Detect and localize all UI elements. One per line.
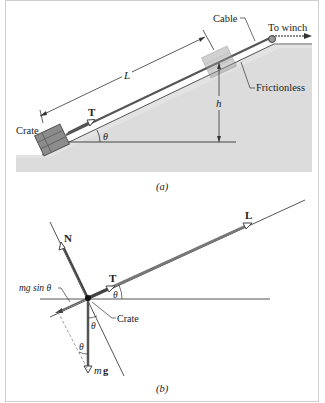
normal-vector [63, 246, 88, 298]
cable-leader [240, 18, 255, 41]
mg-sin-component [60, 298, 88, 311]
height-label: h [216, 97, 222, 109]
crate-label-b: Crate [117, 313, 139, 324]
cable-label: Cable [213, 13, 238, 24]
caption-a: (a) [156, 181, 169, 193]
panel-a: T L h θ Crate Cable To winch Frictionles… [16, 13, 312, 193]
crate-label: Crate [16, 125, 39, 136]
tension-label-b: T [109, 272, 117, 284]
figure: T L h θ Crate Cable To winch Frictionles… [0, 0, 325, 403]
crate-node [85, 295, 91, 301]
weight-label-g: g [103, 365, 109, 376]
tension-label-a: T [88, 106, 96, 118]
angle-label-2: θ [79, 342, 84, 352]
slope-ground [16, 43, 312, 172]
frictionless-label: Frictionless [256, 82, 305, 93]
tension-vector-b [88, 288, 110, 298]
caption-b: (b) [156, 383, 169, 395]
angle-label-a: θ [103, 131, 108, 142]
panel-b: L T θ N m g mg sin θ θ θ Crate (b) [19, 200, 305, 395]
angle-label-t: θ [113, 290, 118, 300]
mg-sin-label: mg sin θ [19, 283, 51, 293]
length-label: L [123, 69, 130, 81]
to-winch-label: To winch [268, 22, 308, 33]
tension-vector-a [68, 122, 90, 133]
angle-label-1: θ [91, 321, 96, 331]
weight-label-m: m [94, 365, 102, 376]
projection-dashed [58, 312, 88, 370]
normal-label: N [64, 232, 72, 244]
displacement-label: L [245, 209, 252, 221]
